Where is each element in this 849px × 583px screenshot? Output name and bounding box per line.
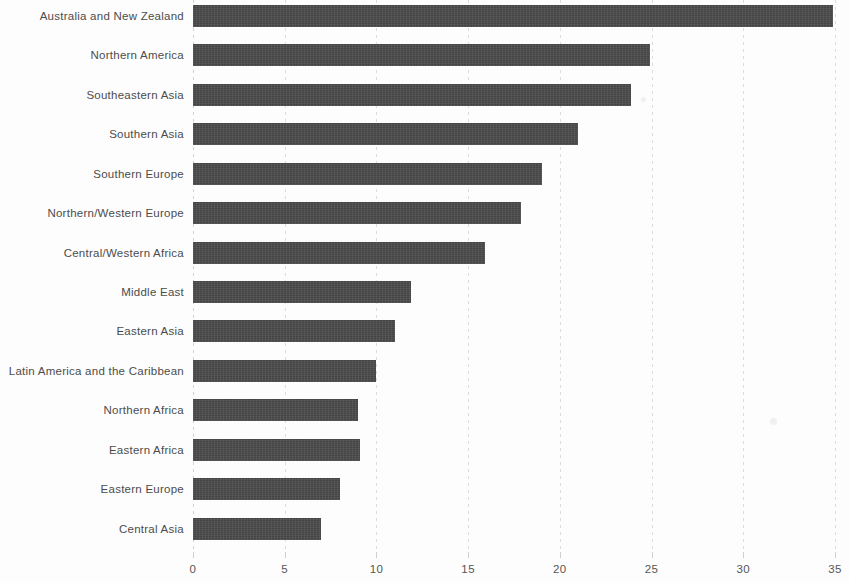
bar [193, 478, 340, 500]
x-tick-mark [560, 552, 561, 558]
bar-category-label: Eastern Africa [109, 431, 184, 470]
bar [193, 202, 521, 224]
x-tick-label: 0 [190, 563, 197, 575]
bar [193, 399, 358, 421]
bar-row: Eastern Europe [193, 470, 835, 509]
bar [193, 123, 578, 145]
x-tick-label: 20 [553, 563, 567, 575]
bar-row: Northern America [193, 36, 835, 75]
bar-category-label: Middle East [121, 273, 184, 312]
x-tick-mark [652, 552, 653, 558]
bar [193, 281, 411, 303]
bar-chart: Australia and New ZealandNorthern Americ… [0, 0, 849, 583]
bar-row: Southern Asia [193, 115, 835, 154]
x-tick-mark [835, 552, 836, 558]
bar-row: Eastern Africa [193, 431, 835, 470]
x-tick-label: 25 [645, 563, 659, 575]
bar [193, 360, 376, 382]
bar-category-label: Eastern Europe [101, 470, 184, 509]
bar-row: Central Asia [193, 510, 835, 549]
x-tick-label: 15 [461, 563, 475, 575]
bar-category-label: Northern/Western Europe [47, 194, 184, 233]
bar-category-label: Southern Europe [93, 155, 184, 194]
gridline-35 [835, 0, 836, 552]
bar [193, 163, 542, 185]
bar-category-label: Central Asia [119, 510, 184, 549]
bar-row: Northern/Western Europe [193, 194, 835, 233]
bar [193, 5, 833, 27]
bar-row: Central/Western Africa [193, 234, 835, 273]
bar-category-label: Northern America [91, 36, 184, 75]
plot-area: Australia and New ZealandNorthern Americ… [193, 0, 835, 552]
x-tick-label: 5 [281, 563, 288, 575]
bar-category-label: Latin America and the Caribbean [9, 352, 184, 391]
bar-row: Southern Europe [193, 155, 835, 194]
bar-row: Latin America and the Caribbean [193, 352, 835, 391]
bar-row: Middle East [193, 273, 835, 312]
bar [193, 320, 395, 342]
bar-row: Southeastern Asia [193, 76, 835, 115]
bar-category-label: Northern Africa [104, 391, 184, 430]
bar-category-label: Central/Western Africa [64, 234, 184, 273]
bar [193, 439, 360, 461]
x-tick-mark [285, 552, 286, 558]
bar-row: Northern Africa [193, 391, 835, 430]
bar-category-label: Southern Asia [109, 115, 184, 154]
x-tick-label: 30 [736, 563, 750, 575]
bar [193, 518, 321, 540]
x-tick-label: 10 [370, 563, 384, 575]
bar-row: Australia and New Zealand [193, 0, 835, 36]
bar-category-label: Eastern Asia [116, 312, 184, 351]
x-tick-mark [376, 552, 377, 558]
bar-row: Eastern Asia [193, 312, 835, 351]
bar [193, 44, 650, 66]
bar-category-label: Southeastern Asia [86, 76, 184, 115]
x-tick-mark [468, 552, 469, 558]
x-axis: 05101520253035 [193, 552, 835, 583]
bar [193, 84, 631, 106]
x-tick-label: 35 [828, 563, 842, 575]
bar [193, 242, 485, 264]
x-tick-mark [743, 552, 744, 558]
x-tick-mark [193, 552, 194, 558]
bar-category-label: Australia and New Zealand [40, 0, 184, 36]
